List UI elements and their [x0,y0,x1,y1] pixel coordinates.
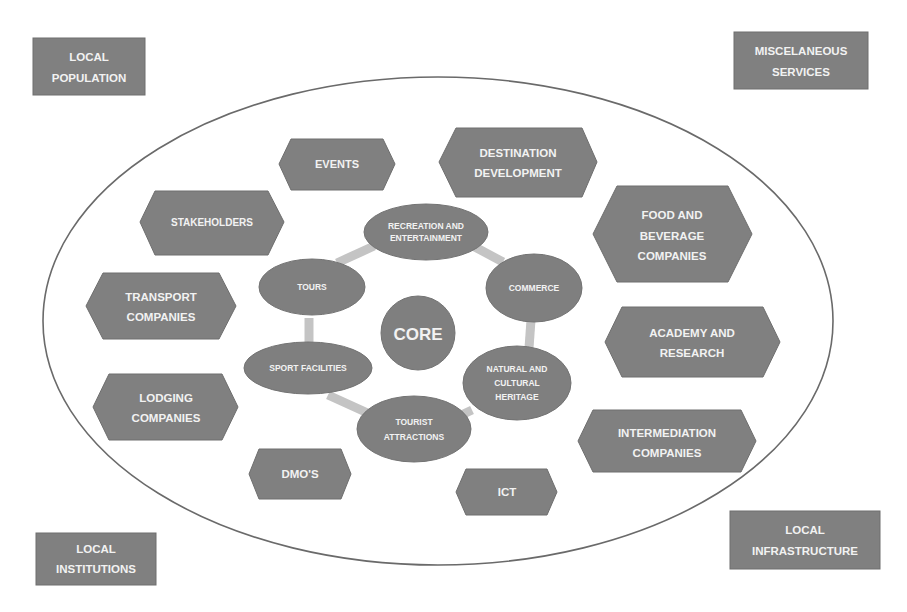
ring-node-label: ATTRACTIONS [384,432,445,442]
svg-text:NATURAL AND: NATURAL AND [487,364,548,374]
hexagon-label: DMO'S [281,468,319,480]
ring-node-tours: TOURS [259,259,365,315]
svg-text:ACADEMY AND: ACADEMY AND [649,327,735,339]
ring-node-label: TOURS [297,282,327,292]
corner-box-miscelaneous-services: MISCELANEOUS SERVICES [734,32,868,89]
svg-text:INSTITUTIONS: INSTITUTIONS [56,563,136,575]
corner-box-local-population: LOCAL POPULATION [33,38,145,95]
hexagon-food-and-beverage-companies: FOOD AND BEVERAGE COMPANIES [593,186,752,282]
hexagon-label: COMPANIES [132,412,201,424]
ring-node-recreation-and-entertainment: RECREATION AND ENTERTAINMENT [364,204,488,260]
svg-text:ENTERTAINMENT: ENTERTAINMENT [390,233,463,243]
corner-box-local-institutions: LOCAL INSTITUTIONS [36,533,156,585]
ring-node-label: ENTERTAINMENT [390,233,463,243]
svg-text:COMPANIES: COMPANIES [127,311,196,323]
svg-text:CORE: CORE [393,325,442,344]
ring-node-label: RECREATION AND [388,221,464,231]
ring-node-label: COMMERCE [509,283,560,293]
corner-box-label: POPULATION [52,72,127,84]
svg-text:ATTRACTIONS: ATTRACTIONS [384,432,445,442]
svg-text:INTERMEDIATION: INTERMEDIATION [618,427,716,439]
svg-text:TOURS: TOURS [297,282,327,292]
hexagon-lodging-companies: LODGING COMPANIES [93,374,238,440]
hexagon-destination-development: DESTINATION DEVELOPMENT [439,128,597,197]
hexagon-label: STAKEHOLDERS [171,217,253,228]
corner-box-label: LOCAL [69,51,109,63]
svg-text:LOCAL: LOCAL [69,51,109,63]
hexagon-intermediation-companies: INTERMEDIATION COMPANIES [578,410,756,472]
corner-box-label: INSTITUTIONS [56,563,136,575]
svg-text:EVENTS: EVENTS [315,158,359,170]
ring-node-label: CULTURAL [494,378,540,388]
svg-text:CULTURAL: CULTURAL [494,378,540,388]
svg-text:HERITAGE: HERITAGE [495,392,539,402]
hexagon-label: TRANSPORT [125,291,197,303]
svg-text:COMMERCE: COMMERCE [509,283,560,293]
ring-node-commerce: COMMERCE [486,254,582,322]
ring-node-tourist-attractions: TOURIST ATTRACTIONS [357,396,471,462]
hexagon-label: COMPANIES [127,311,196,323]
svg-text:DMO'S: DMO'S [281,468,319,480]
hexagon-events: EVENTS [279,139,395,190]
corner-box-label: INFRASTRUCTURE [752,545,858,557]
core-node: CORE [381,296,455,370]
hexagon-label: RESEARCH [660,347,725,359]
hexagon-label: ICT [498,486,517,498]
corner-box-label: MISCELANEOUS [755,45,848,57]
svg-text:LOCAL: LOCAL [785,524,825,536]
corner-box-label: SERVICES [772,66,830,78]
svg-text:DESTINATION: DESTINATION [479,147,556,159]
svg-text:COMPANIES: COMPANIES [633,447,702,459]
svg-text:LOCAL: LOCAL [76,543,116,555]
svg-text:TRANSPORT: TRANSPORT [125,291,197,303]
ring-node-label: SPORT FACILITIES [269,363,347,373]
hexagon-ict: ICT [456,469,557,515]
svg-text:FOOD AND: FOOD AND [642,209,703,221]
svg-text:ICT: ICT [498,486,517,498]
ring-node-label: HERITAGE [495,392,539,402]
hexagon-academy-and-research: ACADEMY AND RESEARCH [605,307,780,377]
ring-node-label: NATURAL AND [487,364,548,374]
corner-box-label: LOCAL [76,543,116,555]
svg-text:TOURIST: TOURIST [395,417,433,427]
svg-text:RECREATION AND: RECREATION AND [388,221,464,231]
svg-text:LODGING: LODGING [139,392,193,404]
corner-box-label: LOCAL [785,524,825,536]
svg-text:SPORT FACILITIES: SPORT FACILITIES [269,363,347,373]
svg-text:SERVICES: SERVICES [772,66,830,78]
svg-text:INFRASTRUCTURE: INFRASTRUCTURE [752,545,858,557]
hexagon-dmos: DMO'S [249,449,351,499]
hexagon-label: INTERMEDIATION [618,427,716,439]
hexagon-label: ACADEMY AND [649,327,735,339]
tourism-ecosystem-diagram: LOCAL POPULATION MISCELANEOUS SERVICES L… [0,0,907,612]
hexagon-transport-companies: TRANSPORT COMPANIES [86,273,236,339]
hexagon-stakeholders: STAKEHOLDERS [140,191,284,255]
hexagon-label: COMPANIES [633,447,702,459]
svg-text:DEVELOPMENT: DEVELOPMENT [474,167,562,179]
hexagon-label: COMPANIES [638,250,707,262]
svg-text:POPULATION: POPULATION [52,72,127,84]
svg-text:RESEARCH: RESEARCH [660,347,725,359]
hexagon-label: EVENTS [315,158,359,170]
hexagon-label: DESTINATION [479,147,556,159]
hexagon-label: BEVERAGE [640,230,705,242]
ring-node-label: TOURIST [395,417,433,427]
svg-text:COMPANIES: COMPANIES [132,412,201,424]
svg-text:BEVERAGE: BEVERAGE [640,230,705,242]
ring-node-sport-facilities: SPORT FACILITIES [244,342,372,394]
svg-text:STAKEHOLDERS: STAKEHOLDERS [171,217,253,228]
core-label: CORE [393,325,442,344]
corner-box-local-infrastructure: LOCAL INFRASTRUCTURE [730,511,880,569]
svg-text:MISCELANEOUS: MISCELANEOUS [755,45,848,57]
ring-node-natural-and-cultural-heritage: NATURAL AND CULTURAL HERITAGE [463,346,571,420]
svg-text:COMPANIES: COMPANIES [638,250,707,262]
hexagon-label: LODGING [139,392,193,404]
hexagon-label: FOOD AND [642,209,703,221]
hexagon-label: DEVELOPMENT [474,167,562,179]
